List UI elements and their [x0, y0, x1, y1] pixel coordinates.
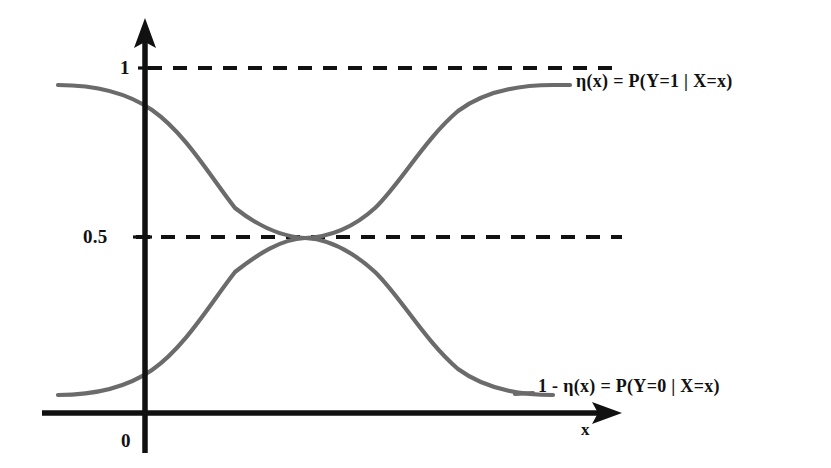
- ascending-sigmoid-curve: [58, 85, 553, 395]
- one-minus-eta-label-leader: [515, 393, 533, 394]
- conditional-probability-figure: 1 0.5 0 x η(x) = P(Y=1 | X=x) 1 - η(x) =…: [0, 0, 831, 468]
- origin-label: 0: [121, 431, 131, 450]
- y-tick-label-0point5: 0.5: [83, 227, 108, 246]
- x-axis-label: x: [581, 421, 590, 438]
- y-tick-label-1: 1: [120, 58, 130, 77]
- eta-curve-label: η(x) = P(Y=1 | X=x): [576, 72, 733, 90]
- one-minus-eta-curve-label: 1 - η(x) = P(Y=0 | X=x): [538, 377, 720, 395]
